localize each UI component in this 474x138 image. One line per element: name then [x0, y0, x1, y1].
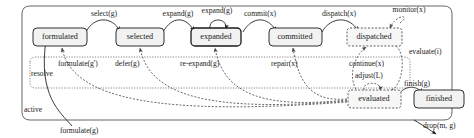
arc-repair [293, 48, 347, 99]
label-monitor: monitor(x) [393, 5, 426, 14]
label-expand: expand(g) [163, 9, 194, 18]
label-finish: finish(g) [404, 79, 431, 88]
label-adjust: adjust(L) [355, 71, 383, 80]
resolve-region-label: resolve [31, 69, 54, 78]
state-formulated-label: formulated [42, 32, 78, 41]
arc-monitor [390, 17, 404, 28]
label-repair: repair(x) [271, 59, 298, 68]
label-reformulate: formulate(g') [58, 59, 98, 68]
arc-select [86, 20, 120, 32]
label-defer: defer(g) [115, 59, 140, 68]
state-evaluated-label: evaluated [358, 94, 389, 103]
state-committed-label: committed [277, 32, 312, 41]
state-evaluated[interactable]: evaluated [348, 90, 401, 108]
state-expanded[interactable]: expanded [191, 28, 241, 46]
label-select: select(g) [91, 9, 118, 18]
label-continue: continue(x) [349, 59, 384, 68]
label-expand-self: expand(g) [202, 6, 233, 15]
state-dispatched[interactable]: dispatched [347, 28, 402, 46]
arc-formulate-entry [44, 40, 72, 126]
arc-re-expand [215, 48, 347, 102]
label-dispatch: dispatch(x) [322, 9, 357, 18]
arc-adjust [364, 83, 380, 90]
state-diagram-figure: active resolve [0, 0, 474, 138]
label-re-expand: re-expand(g) [180, 59, 220, 68]
arc-expand [163, 20, 194, 32]
label-drop: drop(m, g) [423, 121, 456, 130]
state-committed[interactable]: committed [269, 28, 322, 46]
state-expanded-label: expanded [200, 32, 231, 41]
state-selected-label: selected [127, 32, 153, 41]
state-formulated[interactable]: formulated [33, 28, 87, 46]
state-selected[interactable]: selected [116, 28, 164, 46]
state-finished[interactable]: finished [414, 90, 464, 108]
state-finished-label: finished [426, 94, 452, 103]
label-evaluate: evaluate(i) [409, 47, 442, 56]
label-commit: commit(x) [244, 9, 277, 18]
state-diagram-canvas: active resolve [0, 0, 474, 138]
state-nodes: formulated selected expanded committed d… [33, 28, 464, 108]
arc-defer [140, 48, 347, 105]
arc-continue [352, 47, 366, 92]
arc-evaluate [390, 46, 402, 92]
label-formulate-entry: formulate(g) [60, 126, 99, 135]
transition-labels: select(g) expand(g) expand(g) commit(x) … [58, 5, 456, 135]
active-region-label: active [24, 105, 43, 114]
state-dispatched-label: dispatched [356, 32, 391, 41]
